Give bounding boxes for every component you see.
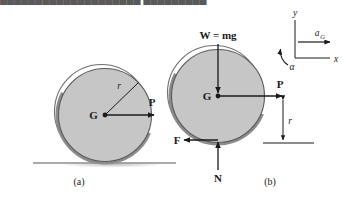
center-label-a: G: [89, 109, 98, 121]
physics-figure-root: ████████████████████ █████████: [0, 0, 346, 201]
force-p-label-a: P: [149, 96, 156, 108]
force-p-label-b: P: [277, 78, 284, 90]
y-axis-label: y: [292, 8, 298, 18]
angular-acceleration-arc: [280, 49, 288, 65]
weight-label-b: W = mg: [199, 29, 237, 41]
figure-a-group: G r P (a): [33, 65, 176, 189]
coordinate-axes-group: y x a G α: [280, 8, 339, 72]
center-point-b: [216, 94, 221, 99]
radius-label-b: r: [288, 116, 292, 126]
friction-label-b: F: [174, 134, 181, 146]
caption-a: (a): [73, 176, 84, 188]
center-point-a: [103, 113, 108, 118]
angular-acceleration-label: α: [290, 62, 296, 72]
acceleration-label: a: [315, 28, 320, 38]
radius-label-a: r: [117, 81, 121, 91]
x-axis-label: x: [333, 54, 339, 64]
diagram-canvas: G r P (a) W = mg P F N: [0, 0, 346, 201]
center-label-b: G: [203, 90, 212, 102]
figure-b-group: W = mg P F N G r (b): [168, 29, 315, 188]
caption-b: (b): [264, 176, 276, 188]
normal-label-b: N: [214, 172, 222, 184]
acceleration-subscript-label: G: [320, 33, 325, 40]
